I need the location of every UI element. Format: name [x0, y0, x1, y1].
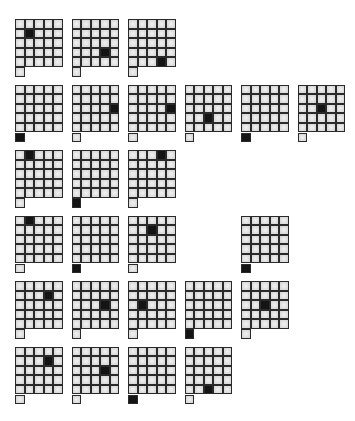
grid-cell [157, 281, 167, 291]
grid-cell [72, 38, 82, 48]
grid-cell [185, 310, 195, 320]
grid-cell [326, 123, 336, 133]
grid-glyph [15, 216, 64, 274]
grid-cell [91, 188, 101, 198]
grid-cell [100, 188, 110, 198]
grid-cell [72, 113, 82, 123]
grid-cell [81, 310, 91, 320]
grid-cell [138, 160, 148, 170]
grid-cell [100, 356, 110, 366]
grid-cell [336, 104, 346, 114]
grid-cell [53, 281, 63, 291]
grid-cell [185, 366, 195, 376]
grid-cell [251, 235, 261, 245]
grid-cell [270, 254, 280, 264]
grid-cell [213, 375, 223, 385]
grid-cell [138, 29, 148, 39]
grid-cell [72, 169, 82, 179]
grid-cell [100, 19, 110, 29]
grid-cell [25, 225, 35, 235]
grid-cell [147, 188, 157, 198]
grid-cell [25, 366, 35, 376]
grid-cell [81, 160, 91, 170]
grid-cell [15, 160, 25, 170]
extra-cell [72, 133, 82, 143]
grid-cell [204, 347, 214, 357]
grid-cell [157, 216, 167, 226]
grid-cell [166, 19, 176, 29]
grid-cell [81, 319, 91, 329]
grid-cell [34, 244, 44, 254]
grid-cell [72, 48, 82, 58]
grid-cell [298, 85, 308, 95]
extra-cell [128, 67, 138, 77]
grid-cell [147, 319, 157, 329]
grid-cell [15, 48, 25, 58]
grid-cell [91, 19, 101, 29]
grid-cell [270, 235, 280, 245]
grid-cell [204, 281, 214, 291]
grid-cell [166, 244, 176, 254]
grid-cell [241, 319, 251, 329]
grid-cell [91, 375, 101, 385]
grid-cell [100, 29, 110, 39]
grid-cell [138, 385, 148, 395]
grid-cell [53, 254, 63, 264]
grid-cell [34, 104, 44, 114]
grid-cell [128, 244, 138, 254]
grid-cell [81, 225, 91, 235]
grid-cell [147, 150, 157, 160]
grid-cell [91, 104, 101, 114]
grid-cell [204, 300, 214, 310]
grid-cell [91, 85, 101, 95]
grid-cell [110, 254, 120, 264]
grid-cell [44, 366, 54, 376]
grid-cell [147, 48, 157, 58]
grid-cell [72, 216, 82, 226]
grid-cell [270, 113, 280, 123]
grid-cell [204, 291, 214, 301]
grid-cell [15, 347, 25, 357]
grid-cell [157, 38, 167, 48]
grid-cell [128, 113, 138, 123]
grid-cell [25, 94, 35, 104]
grid-glyph [128, 19, 177, 77]
grid-cell [53, 216, 63, 226]
grid-cell [157, 300, 167, 310]
grid-cell [91, 310, 101, 320]
grid-cell [223, 113, 233, 123]
grid-cell [251, 281, 261, 291]
grid-cell [166, 356, 176, 366]
grid-cell [81, 347, 91, 357]
grid-cell [53, 300, 63, 310]
grid-cell-filled [166, 104, 176, 114]
grid-cell [34, 356, 44, 366]
grid-cell [34, 123, 44, 133]
grid-cell-filled [100, 366, 110, 376]
grid-cell [251, 104, 261, 114]
grid-cell [185, 291, 195, 301]
grid-cell [91, 225, 101, 235]
grid-cell [34, 19, 44, 29]
grid-cell [44, 19, 54, 29]
grid-cell [279, 244, 289, 254]
grid-cell [100, 254, 110, 264]
grid-cell [166, 48, 176, 58]
grid-cell [34, 169, 44, 179]
grid-cell [157, 169, 167, 179]
grid-cell [166, 375, 176, 385]
grid-cell [204, 94, 214, 104]
grid-cell [223, 356, 233, 366]
grid-cell [147, 356, 157, 366]
grid-cell [15, 291, 25, 301]
grid-cell [157, 48, 167, 58]
grid-cell [44, 216, 54, 226]
grid-cell [72, 385, 82, 395]
grid-cell [204, 366, 214, 376]
grid-cell [91, 366, 101, 376]
grid-cell [81, 169, 91, 179]
grid-cell [81, 244, 91, 254]
grid-cell [25, 48, 35, 58]
grid-cell [128, 19, 138, 29]
grid-cell [138, 235, 148, 245]
